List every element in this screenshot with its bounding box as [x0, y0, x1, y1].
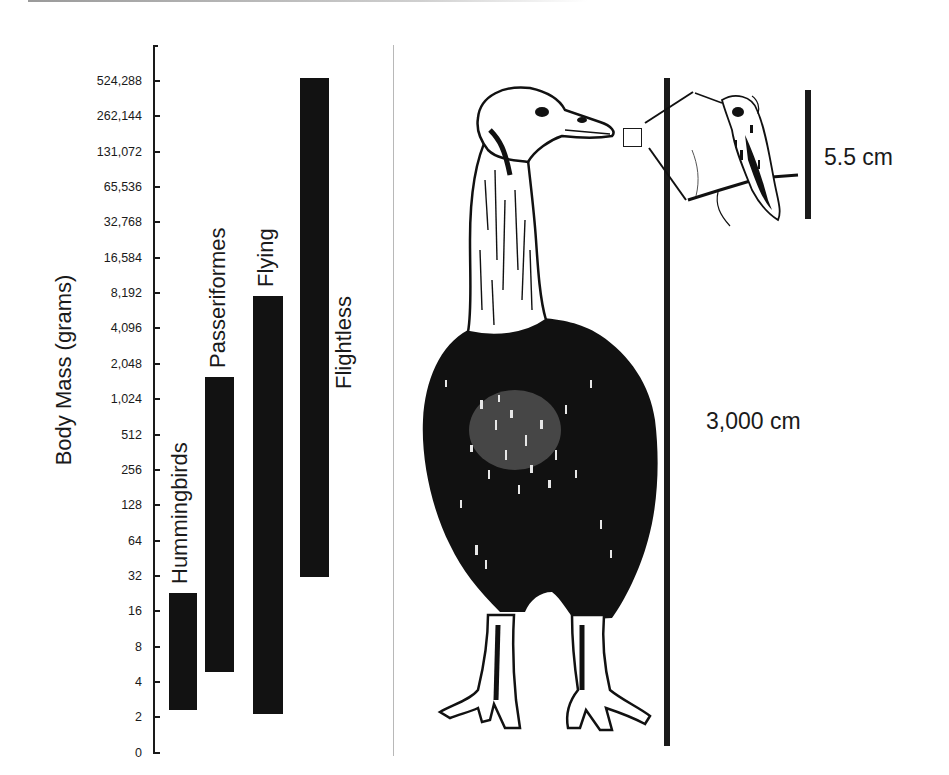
small-scale-bar: [805, 90, 811, 219]
small-scale-label: 5.5 cm: [824, 144, 893, 171]
